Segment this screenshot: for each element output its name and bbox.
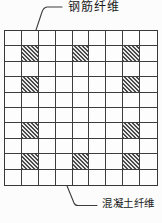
grid-cell-concrete-fiber xyxy=(56,46,73,61)
grid-cell-concrete-fiber xyxy=(22,108,39,123)
fiber-grid xyxy=(4,30,158,186)
grid-cell-concrete-fiber xyxy=(123,139,140,154)
grid-cell-concrete-fiber xyxy=(140,46,157,61)
grid-cell-concrete-fiber xyxy=(123,108,140,123)
grid-cell-concrete-fiber xyxy=(22,170,39,185)
grid-cell-steel-fiber xyxy=(22,154,39,169)
grid-cell-concrete-fiber xyxy=(106,62,123,77)
grid-cell-concrete-fiber xyxy=(39,77,56,92)
grid-cell-concrete-fiber xyxy=(106,31,123,46)
grid-cell-concrete-fiber xyxy=(39,154,56,169)
grid-cell-concrete-fiber xyxy=(39,46,56,61)
grid-cell-concrete-fiber xyxy=(89,31,106,46)
grid-cell-concrete-fiber xyxy=(5,46,22,61)
grid-cell-steel-fiber xyxy=(73,46,90,61)
steel-fiber-label: 钢筋纤维 xyxy=(68,1,120,14)
grid-cell-concrete-fiber xyxy=(56,31,73,46)
grid-cell-concrete-fiber xyxy=(5,31,22,46)
grid-cell-concrete-fiber xyxy=(56,123,73,138)
grid-cell-concrete-fiber xyxy=(39,62,56,77)
grid-cell-concrete-fiber xyxy=(89,108,106,123)
grid-cell-concrete-fiber xyxy=(89,139,106,154)
grid-cell-steel-fiber xyxy=(22,123,39,138)
grid-cell-concrete-fiber xyxy=(5,123,22,138)
grid-cell-concrete-fiber xyxy=(73,123,90,138)
grid-cell-concrete-fiber xyxy=(123,170,140,185)
grid-cell-concrete-fiber xyxy=(56,170,73,185)
grid-cell-concrete-fiber xyxy=(106,93,123,108)
grid-cell-concrete-fiber xyxy=(73,77,90,92)
grid-cell-steel-fiber xyxy=(22,77,39,92)
grid-cell-concrete-fiber xyxy=(5,77,22,92)
grid-cell-concrete-fiber xyxy=(39,170,56,185)
grid-cell-concrete-fiber xyxy=(56,108,73,123)
grid-cell-steel-fiber xyxy=(123,46,140,61)
grid-cell-concrete-fiber xyxy=(56,77,73,92)
grid-cell-concrete-fiber xyxy=(89,46,106,61)
grid-cell-concrete-fiber xyxy=(5,62,22,77)
grid-cell-concrete-fiber xyxy=(22,93,39,108)
grid-cell-concrete-fiber xyxy=(5,139,22,154)
grid-cell-steel-fiber xyxy=(22,46,39,61)
grid-cell-concrete-fiber xyxy=(140,154,157,169)
grid-cell-concrete-fiber xyxy=(22,31,39,46)
grid-cell-concrete-fiber xyxy=(89,123,106,138)
fiber-arrangement-diagram: 钢筋纤维 混凝土纤维 xyxy=(0,0,162,223)
grid-cell-concrete-fiber xyxy=(56,154,73,169)
grid-cell-concrete-fiber xyxy=(73,170,90,185)
grid-cell-concrete-fiber xyxy=(140,170,157,185)
grid-cell-steel-fiber xyxy=(73,154,90,169)
grid-cell-concrete-fiber xyxy=(5,108,22,123)
grid-cell-concrete-fiber xyxy=(56,139,73,154)
grid-cell-concrete-fiber xyxy=(56,62,73,77)
grid-cell-concrete-fiber xyxy=(39,123,56,138)
grid-cell-concrete-fiber xyxy=(5,154,22,169)
grid-cell-steel-fiber xyxy=(123,77,140,92)
grid-cell-steel-fiber xyxy=(123,154,140,169)
grid-cell-steel-fiber xyxy=(123,123,140,138)
grid-cell-concrete-fiber xyxy=(123,93,140,108)
grid-cell-concrete-fiber xyxy=(39,108,56,123)
grid-cell-concrete-fiber xyxy=(89,170,106,185)
grid-cell-concrete-fiber xyxy=(39,139,56,154)
grid-cell-concrete-fiber xyxy=(22,139,39,154)
concrete-fiber-label: 混凝土纤维 xyxy=(102,198,155,210)
grid-cell-concrete-fiber xyxy=(73,139,90,154)
grid-cell-concrete-fiber xyxy=(39,31,56,46)
grid-cell-concrete-fiber xyxy=(89,62,106,77)
grid-cell-concrete-fiber xyxy=(106,170,123,185)
grid-cell-concrete-fiber xyxy=(106,139,123,154)
grid-cell-concrete-fiber xyxy=(106,108,123,123)
grid-cell-concrete-fiber xyxy=(106,46,123,61)
grid-cell-concrete-fiber xyxy=(123,62,140,77)
grid-cell-concrete-fiber xyxy=(106,77,123,92)
grid-cell-concrete-fiber xyxy=(123,31,140,46)
grid-cell-concrete-fiber xyxy=(5,170,22,185)
grid-cell-concrete-fiber xyxy=(73,31,90,46)
grid-cell-concrete-fiber xyxy=(89,154,106,169)
grid-cell-concrete-fiber xyxy=(140,93,157,108)
grid-cell-concrete-fiber xyxy=(140,139,157,154)
grid-cell-concrete-fiber xyxy=(106,154,123,169)
grid-cell-concrete-fiber xyxy=(140,31,157,46)
grid-cell-concrete-fiber xyxy=(89,77,106,92)
grid-cell-concrete-fiber xyxy=(5,93,22,108)
grid-cell-concrete-fiber xyxy=(140,62,157,77)
grid-cell-concrete-fiber xyxy=(39,93,56,108)
grid-cell-concrete-fiber xyxy=(73,93,90,108)
grid-cell-concrete-fiber xyxy=(56,93,73,108)
grid-cell-concrete-fiber xyxy=(140,123,157,138)
grid-cell-concrete-fiber xyxy=(73,62,90,77)
grid-cell-concrete-fiber xyxy=(73,108,90,123)
grid-cell-concrete-fiber xyxy=(140,77,157,92)
grid-cell-concrete-fiber xyxy=(22,62,39,77)
grid-cell-concrete-fiber xyxy=(89,93,106,108)
grid-cell-concrete-fiber xyxy=(106,123,123,138)
grid-cell-concrete-fiber xyxy=(140,108,157,123)
